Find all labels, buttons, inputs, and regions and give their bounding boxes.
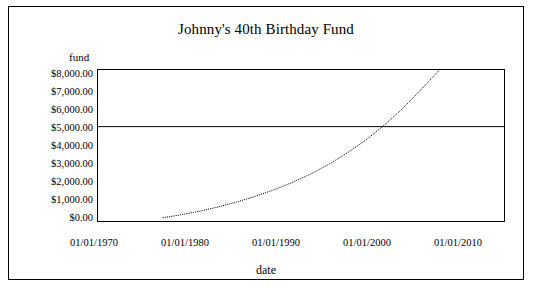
- plot-area: [97, 69, 505, 222]
- fund-curve: [163, 70, 440, 218]
- x-tick-1970: 01/01/1970: [54, 237, 134, 248]
- chart-svg: [98, 70, 504, 221]
- x-tick-1980: 01/01/1980: [145, 237, 225, 248]
- x-tick-2010: 01/01/2010: [418, 237, 498, 248]
- x-tick-1990: 01/01/1990: [236, 237, 316, 248]
- chart-frame: Johnny's 40th Birthday Fund fund date $0…: [8, 6, 524, 280]
- x-tick-2000: 01/01/2000: [327, 237, 407, 248]
